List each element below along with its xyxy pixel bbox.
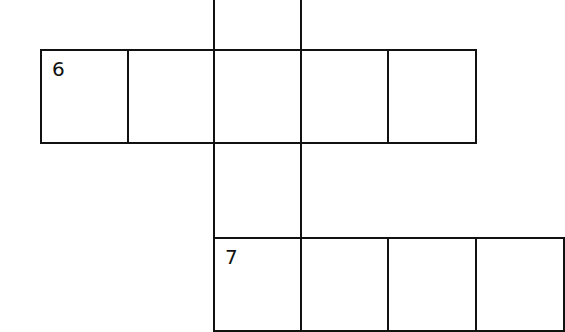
crossword-cell[interactable] <box>127 49 215 144</box>
crossword-cell[interactable] <box>387 237 477 332</box>
crossword-cell[interactable] <box>387 49 477 144</box>
crossword-cell[interactable] <box>213 49 302 144</box>
crossword-cell[interactable] <box>213 142 302 239</box>
crossword-cell[interactable] <box>475 237 565 332</box>
crossword-cell[interactable]: 7 <box>213 237 302 332</box>
crossword-cell[interactable] <box>300 49 389 144</box>
crossword-cell[interactable] <box>213 0 302 51</box>
clue-number: 6 <box>52 57 65 81</box>
clue-number: 7 <box>225 245 238 269</box>
crossword-cell[interactable]: 6 <box>40 49 129 144</box>
crossword-cell[interactable] <box>300 237 389 332</box>
